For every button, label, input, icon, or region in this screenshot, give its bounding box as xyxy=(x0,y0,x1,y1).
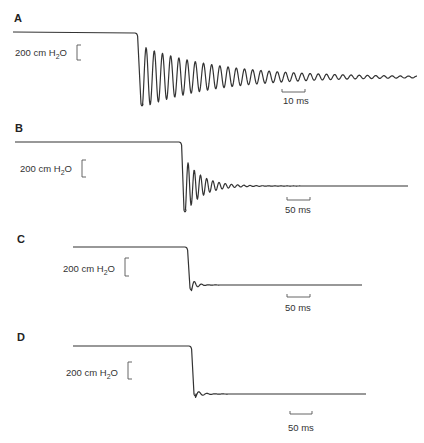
panel-d: D 200 cm H2O 50 ms xyxy=(17,331,366,433)
panel-a: A 200 cm H2O 10 ms xyxy=(13,12,417,106)
pressure-scale-bar xyxy=(125,258,129,276)
panel-letter: D xyxy=(17,331,25,343)
pressure-trace xyxy=(13,32,417,106)
panel-b: B 200 cm H2O 50 ms xyxy=(15,122,408,215)
time-scale-label: 50 ms xyxy=(288,422,314,433)
time-scale-label: 50 ms xyxy=(285,204,311,215)
pressure-trace xyxy=(15,142,408,212)
pressure-scale-bar xyxy=(82,160,86,177)
pressure-scale-bar xyxy=(128,362,132,379)
time-scale-label: 50 ms xyxy=(285,302,311,313)
pressure-trace xyxy=(73,247,362,291)
pressure-scale-label: 200 cm H2O xyxy=(63,263,115,276)
panel-letter: B xyxy=(15,122,23,134)
panel-letter: A xyxy=(14,12,22,24)
panel-letter: C xyxy=(17,233,25,245)
pressure-scale-label: 200 cm H2O xyxy=(66,367,118,380)
pressure-traces-figure: A 200 cm H2O 10 ms B 200 cm H2O 50 ms C … xyxy=(0,0,424,443)
pressure-scale-bar xyxy=(77,45,81,60)
pressure-scale-label: 200 cm H2O xyxy=(20,163,72,176)
time-scale-bar xyxy=(290,411,312,414)
time-scale-bar xyxy=(287,294,310,297)
time-scale-bar xyxy=(282,89,305,92)
pressure-scale-label: 200 cm H2O xyxy=(15,47,67,60)
time-scale-label: 10 ms xyxy=(283,95,309,106)
time-scale-bar xyxy=(287,197,310,200)
panel-c: C 200 cm H2O 50 ms xyxy=(17,233,362,313)
